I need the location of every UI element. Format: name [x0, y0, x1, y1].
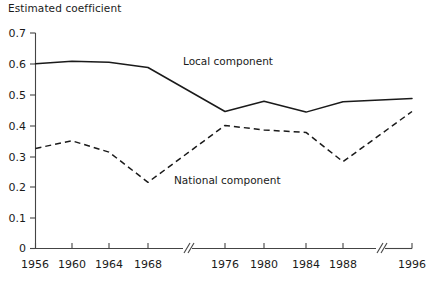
- x-tick-label-1976: 1976: [211, 258, 239, 271]
- y-tick-label-0.5: 0.5: [9, 89, 27, 102]
- y-tick-label-0.2: 0.2: [9, 181, 27, 194]
- chart-plot-area: 0.7 0.6 0.5 0.4 0.3 0.2 0.1 0 1956 1960 …: [0, 0, 438, 284]
- series-national-component-line: [36, 112, 413, 183]
- x-tick-label-1968: 1968: [134, 258, 162, 271]
- x-axis-ticks: [36, 243, 413, 249]
- annotation-national-component: National component: [174, 174, 281, 186]
- y-tick-label-0.3: 0.3: [9, 151, 27, 164]
- x-tick-label-1996: 1996: [398, 258, 426, 271]
- x-tick-label-1980: 1980: [250, 258, 278, 271]
- y-tick-label-0: 0: [19, 242, 26, 255]
- x-tick-label-1956: 1956: [21, 258, 49, 271]
- y-tick-label-0.1: 0.1: [9, 212, 27, 225]
- series-local-component-line: [36, 61, 413, 112]
- x-tick-label-1964: 1964: [95, 258, 123, 271]
- y-axis-ticks: [30, 33, 36, 249]
- annotation-local-component: Local component: [183, 55, 273, 67]
- x-tick-label-1988: 1988: [329, 258, 357, 271]
- x-tick-label-1984: 1984: [292, 258, 320, 271]
- x-tick-label-1960: 1960: [58, 258, 86, 271]
- y-tick-label-0.7: 0.7: [9, 27, 27, 40]
- chart-container: Estimated coefficient 0.7: [0, 0, 438, 284]
- y-tick-label-0.4: 0.4: [9, 120, 27, 133]
- y-tick-label-0.6: 0.6: [9, 58, 27, 71]
